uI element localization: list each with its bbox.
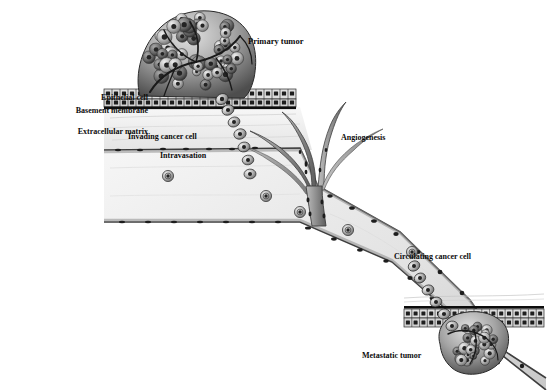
label-epithelial-cell: Epithelial cell	[40, 94, 148, 102]
figure-canvas: Epithelial cellBasement membraneExtracel…	[0, 0, 547, 390]
metastasis-diagram	[0, 0, 547, 390]
label-intravasation: Intravasation	[160, 152, 206, 160]
label-primary-tumor: Primary tumor	[248, 37, 303, 46]
label-angiogenesis: Angiogenesis	[341, 134, 385, 142]
metastatic-tumor-mass	[439, 312, 509, 375]
label-invading-cancer-cell: Invading cancer cell	[128, 133, 197, 141]
label-metastatic-tumor: Metastatic tumor	[362, 352, 421, 360]
label-basement-membrane: Basement membrane	[8, 107, 148, 115]
basement-membrane-lower	[404, 306, 544, 309]
label-circulating-cancer-cell: Circulating cancer cell	[394, 253, 471, 261]
primary-tumor-mass	[138, 11, 256, 98]
